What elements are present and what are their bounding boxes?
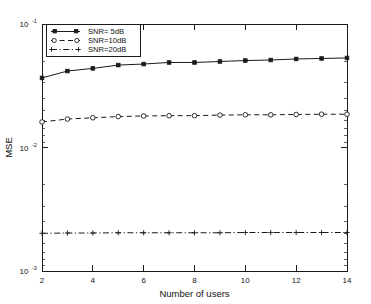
data-point-marker (142, 62, 146, 66)
data-point-marker (243, 112, 248, 117)
data-point-marker (65, 117, 70, 122)
data-point-marker (90, 230, 95, 235)
data-point-marker (268, 230, 273, 235)
y-tick-labels: 10 -1 10 -2 10 -3 (20, 18, 37, 276)
data-point-marker (193, 61, 197, 65)
data-point-marker (345, 56, 349, 60)
y-tick-label-top-base: 10 (20, 20, 29, 29)
data-point-marker (141, 114, 146, 119)
data-point-marker (294, 57, 298, 61)
x-tick-label-6: 14 (343, 276, 352, 285)
x-tick-label-3: 8 (192, 276, 197, 285)
y-tick-label-mid-base: 10 (20, 144, 29, 153)
data-point-marker (344, 230, 349, 235)
data-point-marker (116, 230, 121, 235)
series-0 (40, 56, 349, 80)
y-tick-label-bottom-exponent: -3 (32, 265, 37, 271)
data-point-marker (244, 59, 248, 63)
chart-legend: SNR= 5dB SNR=10dB SNR=20dB (46, 24, 140, 56)
legend-marker-1a (52, 38, 56, 42)
x-tick-label-5: 12 (292, 276, 301, 285)
data-point-marker (319, 230, 324, 235)
x-tick-labels: 2 4 6 8 10 12 14 (40, 276, 352, 285)
data-point-marker (217, 230, 222, 235)
data-point-marker (166, 230, 171, 235)
data-point-marker (65, 230, 70, 235)
data-point-marker (39, 231, 44, 236)
data-point-marker (243, 230, 248, 235)
y-tick-label-bottom-base: 10 (20, 267, 29, 276)
data-point-marker (40, 76, 44, 80)
data-point-marker (91, 67, 95, 71)
x-tick-label-4: 10 (241, 276, 250, 285)
data-point-marker (167, 61, 171, 65)
data-point-marker (167, 113, 172, 118)
legend-marker-0b (75, 30, 78, 33)
data-point-marker (218, 113, 223, 118)
data-point-marker (294, 230, 299, 235)
data-point-marker (268, 112, 273, 117)
series-1 (40, 112, 350, 124)
data-point-marker (91, 115, 96, 120)
data-point-marker (319, 112, 324, 117)
data-point-marker (269, 58, 273, 62)
data-point-marker (345, 112, 350, 117)
legend-label-1: SNR=10dB (88, 36, 126, 45)
data-point-marker (116, 114, 121, 119)
x-tick-label-2: 6 (141, 276, 146, 285)
x-axis-title: Number of users (159, 288, 229, 299)
data-point-marker (40, 120, 45, 125)
data-series-layer (39, 56, 349, 236)
legend-label-0: SNR= 5dB (88, 27, 124, 36)
data-point-marker (66, 69, 70, 73)
x-tick-label-0: 2 (40, 276, 45, 285)
legend-marker-1b (75, 38, 79, 42)
data-point-marker (320, 57, 324, 61)
data-point-marker (294, 112, 299, 117)
data-point-marker (218, 60, 222, 64)
legend-label-2: SNR=20dB (88, 45, 126, 54)
data-point-marker (116, 63, 120, 67)
y-axis-title: MSE (3, 137, 14, 158)
y-tick-label-mid-exponent: -2 (32, 142, 37, 148)
data-point-marker (192, 230, 197, 235)
y-tick-label-top-exponent: -1 (32, 18, 37, 24)
x-tick-label-1: 4 (91, 276, 96, 285)
figure-container: 10 -1 10 -2 10 -3 2 4 6 8 10 12 14 Numbe… (0, 0, 371, 304)
series-2 (39, 230, 349, 236)
data-point-marker (141, 230, 146, 235)
data-point-marker (192, 113, 197, 118)
mse-vs-users-chart: 10 -1 10 -2 10 -3 2 4 6 8 10 12 14 Numbe… (0, 0, 371, 304)
legend-marker-0a (53, 30, 56, 33)
